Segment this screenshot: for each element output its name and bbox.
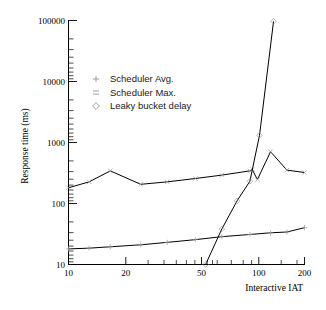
data-point-marker	[108, 244, 113, 249]
data-point-marker	[193, 237, 198, 242]
legend-entry: Scheduler Avg.	[93, 73, 174, 84]
y-tick-label: 100000	[38, 16, 66, 26]
data-point-marker	[268, 150, 272, 154]
data-point-marker	[247, 232, 252, 237]
data-point-marker	[108, 169, 112, 173]
series-scheduler-avg	[66, 225, 307, 251]
legend-entry: Leaky bucket delay	[93, 100, 192, 111]
legend-entry: Scheduler Max.	[93, 87, 176, 98]
x-tick-label: 50	[197, 268, 207, 278]
data-point-marker	[219, 234, 224, 239]
data-point-marker	[138, 242, 143, 247]
x-axis-title: Interactive IAT	[245, 283, 303, 293]
x-tick-label: 20	[121, 268, 131, 278]
y-minor-ticks	[69, 39, 74, 262]
x-minor-ticks	[148, 260, 297, 265]
data-point-marker	[255, 177, 259, 181]
series-line	[69, 152, 305, 188]
legend-label: Leaky bucket delay	[110, 100, 192, 111]
data-point-marker	[284, 229, 289, 234]
data-point-marker	[302, 225, 307, 230]
legend-label: Scheduler Avg.	[110, 73, 174, 84]
y-tick-label: 100	[52, 199, 66, 209]
series-line	[206, 21, 274, 264]
x-tick-labels: 10 20 50 100 200	[64, 268, 312, 278]
data-point-marker	[165, 240, 170, 245]
data-series-layer	[66, 19, 307, 268]
chart-figure: 100000 10000 1000 100 10 10 20 50 100 20…	[0, 0, 326, 310]
diamond-icon	[93, 103, 100, 110]
x-tick-label: 10	[64, 268, 74, 278]
plus-icon	[93, 76, 99, 82]
x-tick-label: 200	[298, 268, 312, 278]
series-scheduler-max	[66, 150, 306, 190]
legend-label: Scheduler Max.	[110, 87, 176, 98]
chart-legend: Scheduler Avg.Scheduler Max.Leaky bucket…	[93, 73, 192, 111]
series-line	[69, 228, 305, 249]
x-tick-label: 100	[252, 268, 266, 278]
data-point-marker	[87, 246, 92, 251]
y-tick-labels: 100000 10000 1000 100 10	[38, 16, 66, 270]
y-axis-title: Response time (ms)	[20, 108, 31, 183]
data-point-marker	[268, 230, 273, 235]
log-log-line-chart: 100000 10000 1000 100 10 10 20 50 100 20…	[0, 0, 326, 310]
cross-icon	[93, 91, 99, 94]
series-leaky-bucket-delay	[203, 19, 277, 268]
y-tick-label: 10000	[43, 77, 66, 87]
y-tick-label: 1000	[47, 138, 66, 148]
